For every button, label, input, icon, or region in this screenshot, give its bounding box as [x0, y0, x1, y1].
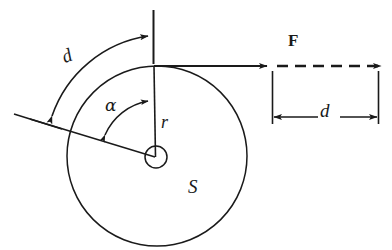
label-force-f: F — [288, 32, 298, 49]
radius-line-vertical — [154, 66, 156, 157]
label-angle-alpha: α — [105, 97, 116, 114]
label-radius-r: r — [161, 113, 168, 131]
physics-diagram-figure: d α r S F d — [0, 0, 392, 250]
angled-radius-tick — [14, 114, 62, 129]
diagram-canvas — [0, 0, 392, 250]
label-dimension-distance-d: d — [320, 101, 330, 120]
main-circle — [67, 66, 247, 246]
label-surface-s: S — [188, 177, 198, 196]
